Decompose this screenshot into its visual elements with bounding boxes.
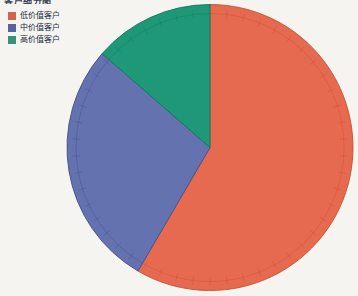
pie-chart xyxy=(0,0,358,296)
chart-page: 客户细分图 低价值客户 中价值客户 高价值客户 xyxy=(0,0,358,296)
